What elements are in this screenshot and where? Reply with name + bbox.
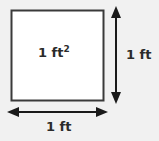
height-arrow-head-down [111, 92, 121, 104]
height-arrow-head-up [111, 6, 121, 18]
width-label: 1 ft [46, 120, 71, 133]
width-arrow [7, 107, 108, 117]
area-label: 1 ft2 [38, 46, 70, 59]
unit-square-diagram: 1 ft2 1 ft 1 ft [0, 0, 159, 141]
area-label-base: 1 ft [38, 45, 63, 60]
width-arrow-head-left [7, 107, 19, 117]
height-label: 1 ft [126, 48, 151, 61]
width-arrow-head-right [96, 107, 108, 117]
area-label-exponent: 2 [63, 44, 69, 54]
diagram-canvas [0, 0, 159, 141]
height-arrow [111, 6, 121, 104]
